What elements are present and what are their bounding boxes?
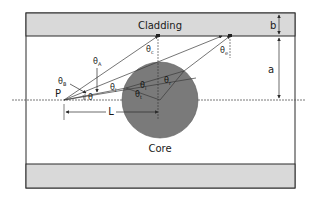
theta-label: θ	[88, 93, 93, 102]
theta-e-point	[228, 34, 232, 37]
cladding-label: Cladding	[138, 20, 182, 31]
theta-c-point	[156, 34, 160, 37]
fiber-diagram: Cladding Core P θ θA θB	[0, 0, 314, 197]
point-p-label: P	[55, 88, 61, 99]
cladding-bottom	[26, 164, 295, 188]
a-label: a	[268, 64, 274, 75]
b-label: b	[270, 20, 276, 31]
cladding-top: Cladding	[26, 13, 295, 36]
core-label: Core	[148, 143, 171, 154]
l-label: L	[108, 106, 114, 117]
